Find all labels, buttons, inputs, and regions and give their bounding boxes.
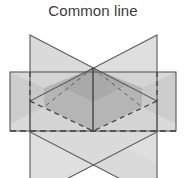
figure-root: Common line bbox=[0, 0, 186, 178]
common-line-diagram bbox=[0, 0, 186, 178]
